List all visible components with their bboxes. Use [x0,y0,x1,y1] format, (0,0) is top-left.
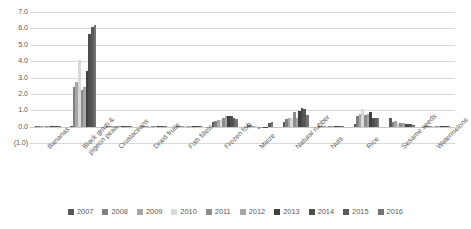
bar[interactable] [200,12,203,143]
y-axis: 7.06.05.04.03.02.01.00.0(1.0) [0,12,28,143]
legend-swatch [378,209,384,215]
bar-fill [306,115,309,126]
legend-label: 2008 [111,208,127,216]
bar-fill [94,25,97,127]
x-axis-category-cell: Sesame seeds [384,143,419,195]
bar-groups [30,12,455,143]
legend-swatch [309,209,315,215]
x-axis-category-labels: BananasBlack gram & pigeon peasCrustacea… [30,143,455,195]
legend-swatch [240,209,246,215]
bar-fill [235,119,238,126]
bar[interactable] [129,12,132,143]
legend-label: 2010 [180,208,196,216]
y-axis-tick-label: 0.0 [0,123,28,130]
bar-fill [271,122,274,127]
x-axis-category-cell: Rice [349,143,384,195]
x-axis-category-cell: Bananas [30,143,65,195]
legend-label: 2007 [77,208,93,216]
x-axis-category-cell: Natural rubber [278,143,313,195]
legend-label: 2013 [283,208,299,216]
legend-item[interactable]: 2015 [343,208,368,216]
bar[interactable] [58,12,61,143]
bar-group [384,12,419,143]
legend-item[interactable]: 2013 [274,208,299,216]
bar-group [207,12,242,143]
bar-group [65,12,100,143]
legend-swatch [274,209,280,215]
bar-fill [448,126,451,127]
plot-area [30,12,455,143]
y-axis-tick-label: 5.0 [0,41,28,48]
legend-swatch [171,209,177,215]
y-axis-tick-label: 4.0 [0,57,28,64]
bar-group [278,12,313,143]
x-axis-category-cell: Nuts [313,143,348,195]
bar-fill [129,126,132,127]
legend-label: 2012 [249,208,265,216]
legend-label: 2015 [352,208,368,216]
bar[interactable] [235,12,238,143]
y-axis-tick-label: 3.0 [0,74,28,81]
bar[interactable] [377,12,380,143]
bar[interactable] [164,12,167,143]
bar-fill [200,126,203,127]
y-axis-tick-label: (1.0) [0,139,28,146]
bar-fill [164,126,167,127]
legend-item[interactable]: 2014 [309,208,334,216]
bar-fill [412,125,415,127]
bar-fill [58,126,61,127]
legend-label: 2014 [318,208,334,216]
bar[interactable] [271,12,274,143]
legend-label: 2009 [146,208,162,216]
x-axis-category-cell: Black gram & pigeon peas [65,143,100,195]
x-axis-category-cell: Watermelons [420,143,455,195]
bar[interactable] [412,12,415,143]
y-axis-tick-label: 1.0 [0,106,28,113]
legend-swatch [206,209,212,215]
y-axis-tick-label: 2.0 [0,90,28,97]
y-axis-tick-label: 6.0 [0,24,28,31]
bar-group [30,12,65,143]
x-axis-category-cell: Maize [243,143,278,195]
bar[interactable] [341,12,344,143]
x-axis-category-cell: Dried fruits [136,143,171,195]
legend-label: 2016 [387,208,403,216]
legend-item[interactable]: 2016 [378,208,403,216]
y-axis-tick-label: 7.0 [0,8,28,15]
bar-fill [341,126,344,127]
legend-item[interactable]: 2011 [206,208,231,216]
x-axis-category-cell: Fish fillets [172,143,207,195]
x-axis-category-cell: Frozen fish [207,143,242,195]
legend-item[interactable]: 2010 [171,208,196,216]
bar[interactable] [306,12,309,143]
chart-legend: 2007200820092010201120122013201420152016 [0,204,471,220]
legend-item[interactable]: 2009 [137,208,162,216]
legend-label: 2011 [215,208,231,216]
legend-item[interactable]: 2012 [240,208,265,216]
bar-fill [377,118,380,126]
legend-swatch [68,209,74,215]
legend-item[interactable]: 2008 [102,208,127,216]
x-axis-category-cell: Crustaceans [101,143,136,195]
bar[interactable] [448,12,451,143]
legend-item[interactable]: 2007 [68,208,93,216]
legend-swatch [343,209,349,215]
bar[interactable] [94,12,97,143]
legend-swatch [102,209,108,215]
bar-chart: 7.06.05.04.03.02.01.00.0(1.0) BananasBla… [0,0,471,229]
bar-group [349,12,384,143]
legend-swatch [137,209,143,215]
